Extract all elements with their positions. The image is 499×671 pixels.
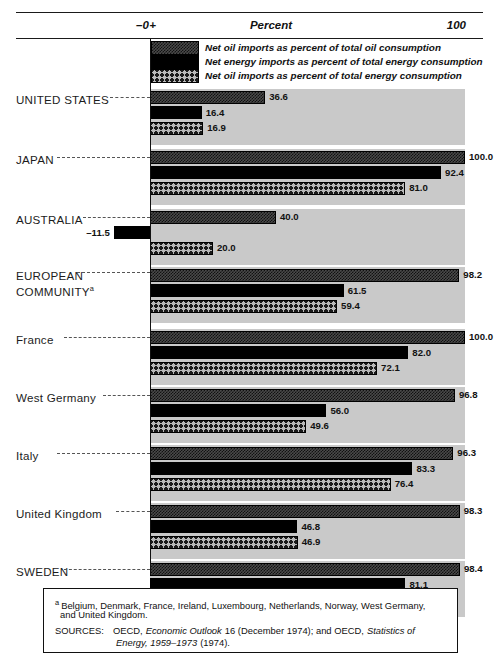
sources-line-2: Energy, 1959–1973(1974). xyxy=(116,637,230,649)
sources-label: SOURCES: xyxy=(55,625,104,636)
bar-value-label: 81.0 xyxy=(409,182,428,194)
bar-value-label: 96.8 xyxy=(459,389,478,401)
legend-swatch-oil-of-oil xyxy=(151,41,199,55)
bar-value-label: 72.1 xyxy=(381,362,400,374)
sources-seg-1: OECD, xyxy=(113,625,143,636)
sources-seg-2: Economic Outlook xyxy=(146,625,222,636)
bar-value-label: 16.9 xyxy=(207,122,226,134)
legend-swatch-energy xyxy=(151,55,199,69)
axis-max-label: 100 xyxy=(380,17,466,33)
row-label-line: SWEDEN xyxy=(16,565,68,578)
legend-label-energy: Net energy imports as percent of total e… xyxy=(205,55,483,69)
label-leader-line xyxy=(103,395,150,396)
bar-value-label: 76.4 xyxy=(395,478,414,490)
bar-oil_of_oil xyxy=(150,91,265,104)
row-label-line: France xyxy=(16,333,54,346)
sources-seg-3: 16 (December 1974); and OECD, xyxy=(225,625,364,636)
top-rule xyxy=(16,12,483,13)
bar-oil_of_oil xyxy=(150,505,460,518)
row-label: SWEDEN xyxy=(16,565,68,578)
sources-line-1: SOURCES:OECD,Economic Outlook16 (Decembe… xyxy=(55,625,415,637)
row-label-line: AUSTRALIA xyxy=(16,213,83,226)
bar-oil_of_energy xyxy=(150,478,391,491)
row-label-footnote-marker: a xyxy=(90,284,94,293)
energy-imports-bar-chart: –0+ Percent 100 Net oil imports as perce… xyxy=(0,0,499,671)
bar-value-label: 61.5 xyxy=(348,285,367,297)
bar-oil_of_oil xyxy=(150,211,276,224)
row-label-line: UNITED STATES xyxy=(16,93,109,106)
bar-oil_of_oil xyxy=(150,331,465,344)
label-leader-line xyxy=(57,453,150,454)
bar-oil_of_oil xyxy=(150,269,459,282)
row-label: UNITED STATES xyxy=(16,93,109,106)
bar-energy xyxy=(150,346,408,359)
bar-value-label: 16.4 xyxy=(206,107,225,119)
footnote-box: aBelgium, Denmark, France, Ireland, Luxe… xyxy=(43,588,458,653)
axis-zero-label: –0+ xyxy=(136,17,196,33)
bar-oil_of_energy xyxy=(150,182,405,195)
row-label-line: West Germany xyxy=(16,391,96,404)
row-label: JAPAN xyxy=(16,153,54,166)
bar-value-label: 46.9 xyxy=(302,536,321,548)
bar-energy xyxy=(150,166,441,179)
bar-oil_of_energy xyxy=(150,122,203,135)
bar-value-label: 46.8 xyxy=(301,521,320,533)
bar-oil_of_energy xyxy=(150,362,377,375)
plot-area: Net oil imports as percent of total oil … xyxy=(0,39,499,580)
row-label: France xyxy=(16,333,54,346)
bar-value-label: 98.4 xyxy=(464,563,483,575)
label-leader-line xyxy=(83,217,150,218)
bar-oil_of_oil xyxy=(150,151,465,164)
label-leader-line xyxy=(64,569,150,570)
row-label: AUSTRALIA xyxy=(16,213,83,226)
label-leader-line xyxy=(64,337,150,338)
footnote-line-2: and United Kingdom. xyxy=(60,609,148,621)
label-leader-line xyxy=(57,157,150,158)
bar-value-label: –11.5 xyxy=(62,227,110,239)
row-label-line: JAPAN xyxy=(16,153,54,166)
row-label: EUROPEANCOMMUNITYa xyxy=(16,269,94,298)
sources-seg-5: Energy, 1959–1973 xyxy=(116,637,197,648)
bar-value-label: 40.0 xyxy=(280,211,299,223)
sources-seg-4: Statistics of xyxy=(367,625,415,636)
bar-value-label: 36.6 xyxy=(269,91,288,103)
bar-value-label: 49.6 xyxy=(310,420,329,432)
bar-energy xyxy=(150,106,202,119)
bar-value-label: 92.4 xyxy=(445,167,464,179)
bar-energy xyxy=(150,284,344,297)
bar-energy xyxy=(150,520,297,533)
sources-seg-6: (1974). xyxy=(200,637,230,648)
bar-value-label: 98.2 xyxy=(463,269,482,281)
bar-oil_of_energy xyxy=(150,242,213,255)
bar-value-label: 96.3 xyxy=(457,447,476,459)
bar-oil_of_oil xyxy=(150,389,455,402)
chart-legend: Net oil imports as percent of total oil … xyxy=(0,39,499,88)
label-leader-line xyxy=(77,272,150,273)
axis-title: Percent xyxy=(196,17,346,33)
bar-energy xyxy=(150,462,412,475)
bar-value-label: 100.0 xyxy=(469,331,493,343)
bar-oil_of_oil xyxy=(150,447,453,460)
row-label-line: EUROPEAN xyxy=(16,269,94,282)
bar-value-label: 56.0 xyxy=(330,405,349,417)
row-label-line: United Kingdom xyxy=(16,507,102,520)
bar-value-label: 20.0 xyxy=(217,242,236,254)
bar-value-label: 82.0 xyxy=(412,347,431,359)
bar-oil_of_oil xyxy=(150,563,460,576)
bar-energy xyxy=(150,404,326,417)
bar-value-label: 98.3 xyxy=(464,505,483,517)
bar-value-label: 83.3 xyxy=(416,463,435,475)
label-leader-line xyxy=(110,97,150,98)
bar-oil_of_energy xyxy=(150,536,298,549)
bar-oil_of_energy xyxy=(150,420,306,433)
legend-swatch-oil-of-energy xyxy=(151,69,199,83)
bar-value-label: 59.4 xyxy=(341,300,360,312)
bar-energy xyxy=(114,226,150,239)
row-label: United Kingdom xyxy=(16,507,102,520)
zero-axis-line xyxy=(150,39,151,575)
label-leader-line xyxy=(116,511,150,512)
bar-oil_of_energy xyxy=(150,300,337,313)
legend-label-oil-of-oil: Net oil imports as percent of total oil … xyxy=(205,41,441,55)
row-label: West Germany xyxy=(16,391,96,404)
row-label-line: COMMUNITYa xyxy=(16,282,94,298)
